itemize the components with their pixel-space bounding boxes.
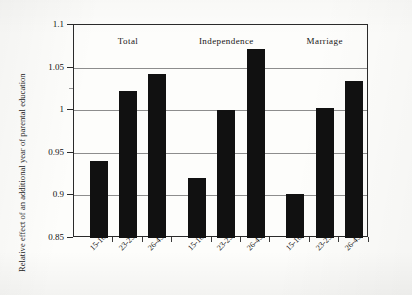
y-axis-title-container: Relative effect of an additional year of… — [0, 0, 24, 295]
plot-area: TotalIndependenceMarriage — [73, 24, 368, 237]
x-axis-tick-mark — [142, 237, 143, 242]
bar — [188, 178, 206, 238]
group-title: Independence — [199, 36, 254, 46]
x-axis-tick-mark — [112, 237, 113, 242]
y-axis-tick-label: 1.1 — [24, 19, 64, 29]
group-title: Total — [118, 36, 138, 46]
x-axis-tick-mark — [240, 237, 241, 242]
bar — [316, 108, 334, 238]
bar — [345, 81, 363, 238]
x-axis-tick-mark — [171, 237, 172, 242]
bar — [119, 91, 137, 238]
gridline — [74, 68, 367, 69]
y-axis-tick-label: 1 — [24, 104, 64, 114]
chart-figure: Relative effect of an additional year of… — [0, 0, 412, 295]
x-axis-tick-mark — [269, 237, 270, 242]
y-axis-tick-label: 0.9 — [24, 189, 64, 199]
group-title: Marriage — [307, 36, 343, 46]
bar — [217, 110, 235, 238]
x-axis-tick-mark — [309, 237, 310, 242]
x-axis-tick-mark — [211, 237, 212, 242]
x-axis-tick-mark — [338, 237, 339, 242]
y-axis-tick-label: 0.95 — [24, 147, 64, 157]
bar — [90, 161, 108, 238]
bar — [286, 194, 304, 238]
y-axis-tick-label: 1.05 — [24, 62, 64, 72]
y-axis-tick-mark — [67, 237, 73, 238]
x-axis-tick-mark — [368, 237, 369, 242]
y-axis-tick-label: 0.85 — [24, 232, 64, 242]
bar — [247, 49, 265, 238]
y-axis-title: Relative effect of an additional year of… — [17, 73, 27, 272]
bar — [148, 74, 166, 238]
